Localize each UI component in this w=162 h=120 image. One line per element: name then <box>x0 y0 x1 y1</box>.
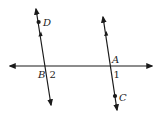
geometry-diagram: D B 2 A 1 C <box>0 0 162 120</box>
point-D <box>37 20 41 24</box>
label-C: C <box>119 92 127 103</box>
label-A: A <box>111 54 119 65</box>
parallel-mark-left-icon <box>38 32 42 37</box>
label-angle-1: 1 <box>114 69 120 80</box>
label-D: D <box>42 17 51 28</box>
label-B: B <box>37 69 45 80</box>
label-angle-2: 2 <box>50 69 56 80</box>
point-C <box>113 94 117 98</box>
